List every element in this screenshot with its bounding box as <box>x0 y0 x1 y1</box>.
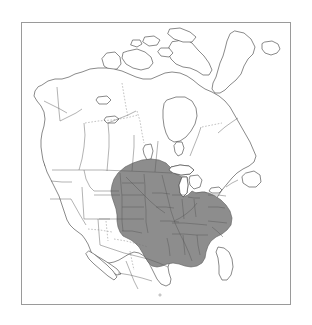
lake-ontario <box>209 187 222 193</box>
figure-caption <box>21 308 291 322</box>
north-america-range-map <box>22 23 290 304</box>
figure-root <box>0 0 312 325</box>
map-frame <box>21 22 291 305</box>
